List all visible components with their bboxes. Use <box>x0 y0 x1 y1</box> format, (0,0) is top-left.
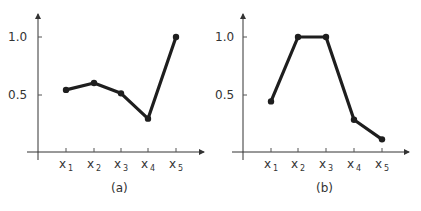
chart-b-xticks <box>271 148 382 152</box>
chart-a-series-line <box>66 37 176 119</box>
chart-a-xtick-labels: x1 x2 x3 x4 x5 <box>59 157 183 173</box>
figure: 1.0 0.5 x1 x2 x3 x4 x5 (a) 1.0 0.5 <box>0 0 421 211</box>
chart-a-ytick-label-05: 0.5 <box>8 88 27 102</box>
chart-b-xlabel: x4 <box>347 157 361 173</box>
chart-a: 1.0 0.5 x1 x2 x3 x4 x5 (a) <box>8 14 204 195</box>
chart-b-ytick-label-05: 0.5 <box>215 88 234 102</box>
data-point <box>351 117 357 123</box>
chart-b-xlabel: x1 <box>264 157 278 173</box>
chart-a-xlabel: x1 <box>59 157 73 173</box>
chart-b-xtick-labels: x1 x2 x3 x4 x5 <box>264 157 389 173</box>
chart-a-caption: (a) <box>111 181 128 195</box>
chart-b-xlabel: x2 <box>291 157 305 173</box>
chart-b-ytick-label-1: 1.0 <box>215 30 234 44</box>
data-point <box>173 34 179 40</box>
data-point <box>379 136 385 142</box>
chart-b-xlabel: x3 <box>319 157 333 173</box>
data-point <box>295 34 301 40</box>
data-point <box>323 34 329 40</box>
chart-a-xlabel: x5 <box>169 157 183 173</box>
data-point <box>268 98 274 104</box>
data-point <box>91 80 97 86</box>
data-point <box>118 90 124 96</box>
chart-b-xlabel: x5 <box>375 157 389 173</box>
chart-a-ytick-label-1: 1.0 <box>8 30 27 44</box>
data-point <box>145 115 151 121</box>
chart-a-xticks <box>66 148 176 152</box>
chart-a-xlabel: x3 <box>114 157 128 173</box>
chart-b-caption: (b) <box>316 181 333 195</box>
chart-b-series-line <box>271 37 382 139</box>
chart-b-data-points <box>268 34 385 143</box>
chart-a-xlabel: x2 <box>87 157 101 173</box>
chart-b: 1.0 0.5 x1 x2 x3 x4 x5 (b) <box>215 14 409 195</box>
data-point <box>63 87 69 93</box>
chart-a-xlabel: x4 <box>141 157 155 173</box>
